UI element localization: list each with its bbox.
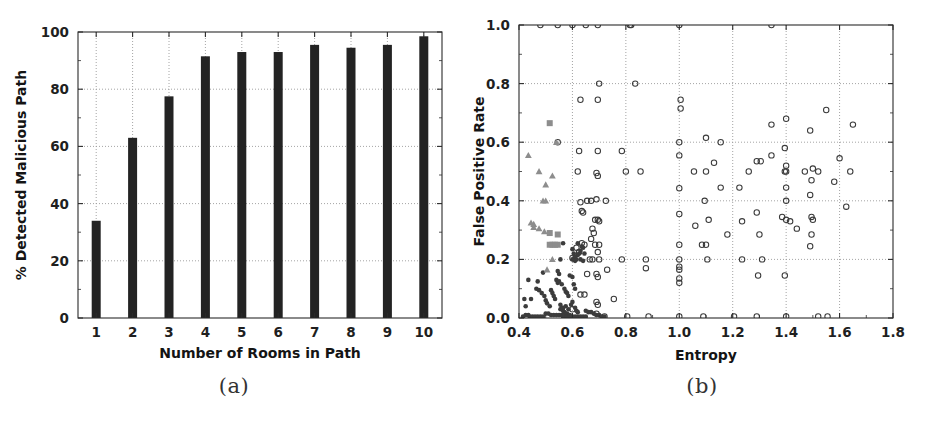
y-tick-label: 0.2 [486,251,510,267]
x-tick-label: 8 [346,324,355,340]
scatter-marker-open-circle [782,273,787,278]
x-tick-label: 5 [237,324,246,340]
bar [201,56,210,318]
y-tick-label: 1.0 [486,17,510,33]
scatter-marker-filled-circle [523,304,528,309]
scatter-marker-square [547,120,553,126]
scatter-marker-filled-circle [582,251,587,256]
x-tick-label: 3 [164,324,173,340]
scatter-marker-open-circle [594,197,599,202]
y-axis-label: False Positive Rate [471,96,487,246]
scatter-marker-filled-circle [542,294,547,299]
x-tick-label: 6 [273,324,282,340]
scatter-marker-filled-circle [571,282,576,287]
scatter-marker-open-circle [595,249,600,254]
scatter-marker-open-circle [578,97,583,102]
x-tick-label: 1 [91,324,100,340]
scatter-marker-open-circle [595,148,600,153]
y-tick-label: 0.8 [486,76,510,92]
bar-chart-svg: 02040608010012345678910Number of Rooms i… [0,0,468,370]
y-tick-label: 80 [50,81,69,97]
scatter-marker-open-circle [755,273,760,278]
scatter-marker-open-circle [737,185,742,190]
scatter-marker-open-circle [758,159,763,164]
scatter-marker-open-circle [604,267,609,272]
x-tick-label: 7 [310,324,319,340]
scatter-marker-open-circle [703,135,708,140]
bar [347,48,356,318]
y-tick-label: 0.6 [486,134,510,150]
x-tick-label: 1.0 [667,324,691,340]
panel-a-caption: (a) [0,374,468,398]
x-tick-label: 1.2 [721,324,745,340]
bar [237,52,246,318]
bar [165,96,174,318]
scatter-marker-open-circle [754,210,759,215]
scatter-marker-filled-circle [526,278,531,283]
scatter-chart-svg: 0.00.20.40.60.81.00.40.60.81.01.21.41.61… [468,0,936,370]
y-tick-label: 20 [50,253,69,269]
scatter-marker-filled-circle [569,303,574,308]
scatter-marker-open-circle [844,204,849,209]
bar [274,52,283,318]
scatter-points-group [521,22,856,319]
scatter-marker-filled-circle [522,297,527,302]
scatter-marker-open-circle [638,169,643,174]
scatter-marker-square [555,242,561,248]
scatter-marker-open-circle [579,208,584,213]
scatter-marker-filled-circle [566,294,571,299]
scatter-marker-triangle [549,172,556,178]
scatter-marker-filled-circle [526,313,531,318]
scatter-marker-filled-circle [581,245,586,250]
scatter-marker-open-circle [703,242,708,247]
scatter-marker-open-circle [575,169,580,174]
scatter-marker-open-circle [802,169,807,174]
y-tick-label: 0.4 [486,193,510,209]
scatter-marker-filled-circle [555,269,560,274]
scatter-marker-open-circle [809,178,814,183]
scatter-marker-open-circle [691,169,696,174]
x-tick-label: 1.6 [828,324,852,340]
scatter-marker-open-circle [678,97,683,102]
scatter-marker-open-circle [619,148,624,153]
scatter-marker-open-circle [769,153,774,158]
scatter-marker-open-circle [794,226,799,231]
scatter-marker-open-circle [725,232,730,237]
scatter-marker-open-circle [588,236,593,241]
scatter-marker-triangle [525,152,532,158]
scatter-marker-filled-circle [558,257,563,262]
scatter-marker-open-circle [582,292,587,297]
scatter-marker-filled-circle [575,310,580,315]
scatter-marker-filled-circle [581,259,586,264]
scatter-marker-open-circle [739,257,744,262]
scatter-marker-filled-circle [566,307,571,312]
x-tick-label: 0.4 [507,324,531,340]
bar [310,45,319,318]
bar [92,221,101,318]
scatter-marker-filled-circle [535,279,540,284]
scatter-marker-filled-circle [570,247,575,252]
y-axis-label: % Detected Malicious Path [13,70,29,280]
scatter-marker-open-circle [578,200,583,205]
scatter-marker-open-circle [769,122,774,127]
scatter-marker-open-circle [810,166,815,171]
scatter-marker-filled-circle [559,282,564,287]
scatter-marker-filled-circle [547,304,552,309]
x-tick-label: 1.4 [774,324,798,340]
bar [128,138,137,318]
scatter-marker-filled-circle [561,241,566,246]
scatter-marker-open-circle [693,223,698,228]
scatter-marker-open-circle [809,232,814,237]
scatter-marker-open-circle [643,265,648,270]
figure-container: 02040608010012345678910Number of Rooms i… [0,0,936,429]
scatter-marker-triangle [536,168,543,174]
scatter-marker-filled-circle [573,254,578,259]
scatter-marker-triangle [544,266,551,272]
y-tick-label: 40 [50,196,69,212]
scatter-marker-open-circle [807,128,812,133]
scatter-marker-open-circle [816,169,821,174]
panel-a-bar-chart: 02040608010012345678910Number of Rooms i… [0,0,468,429]
scatter-marker-open-circle [807,244,812,249]
x-tick-label: 0.8 [614,324,638,340]
scatter-marker-triangle [542,181,549,187]
